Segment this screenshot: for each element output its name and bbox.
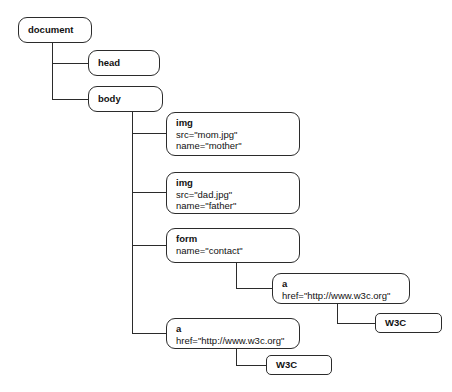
node-img-father-tag: img xyxy=(176,177,299,189)
node-img-father-attr-name: name="father" xyxy=(176,200,299,212)
node-img-mother-attr-src: src="mom.jpg" xyxy=(176,129,299,141)
node-img-father[interactable]: img src="dad.jpg" name="father" xyxy=(166,172,300,214)
node-anchor-form-attr-href: href="http://www.w3c.org" xyxy=(282,290,409,302)
node-anchor-body[interactable]: a href="http://www.w3c.org" xyxy=(166,318,300,349)
node-form-contact-tag: form xyxy=(176,233,299,245)
node-anchor-body-tag: a xyxy=(176,323,299,335)
node-img-mother-tag: img xyxy=(176,117,299,129)
node-anchor-body-attr-href: href="http://www.w3c.org" xyxy=(176,335,299,347)
edge-anchor-body-text xyxy=(236,349,266,365)
node-document-tag: document xyxy=(28,24,73,36)
node-head-tag: head xyxy=(98,57,120,69)
node-text-w3c-body-label: W3C xyxy=(276,359,297,371)
node-anchor-form[interactable]: a href="http://www.w3c.org" xyxy=(272,273,410,304)
node-text-w3c-body[interactable]: W3C xyxy=(266,355,332,375)
edge-form-anchor xyxy=(236,263,272,288)
node-form-contact[interactable]: form name="contact" xyxy=(166,228,300,263)
node-document[interactable]: document xyxy=(18,17,92,43)
edge-anchor-form-text xyxy=(337,304,375,323)
edge-document-body xyxy=(52,63,88,99)
node-body-tag: body xyxy=(98,93,121,105)
node-body[interactable]: body xyxy=(88,86,163,112)
node-anchor-form-tag: a xyxy=(282,278,409,290)
node-head[interactable]: head xyxy=(88,50,160,76)
dom-tree-diagram: document head body img src="mom.jpg" nam… xyxy=(0,0,452,392)
node-img-mother-attr-name: name="mother" xyxy=(176,140,299,152)
node-img-mother[interactable]: img src="mom.jpg" name="mother" xyxy=(166,112,300,156)
edge-document-head xyxy=(52,43,88,63)
node-form-contact-attr-name: name="contact" xyxy=(176,245,299,257)
node-img-father-attr-src: src="dad.jpg" xyxy=(176,189,299,201)
node-text-w3c-form[interactable]: W3C xyxy=(375,313,442,333)
node-text-w3c-form-label: W3C xyxy=(385,317,406,329)
